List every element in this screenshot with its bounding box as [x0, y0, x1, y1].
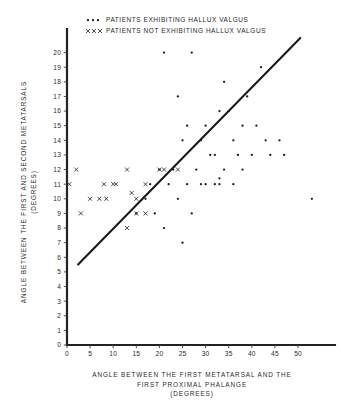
data-point-dot	[311, 198, 313, 200]
data-point-dot	[200, 183, 202, 185]
data-point-dot	[237, 154, 239, 156]
data-point-dot	[269, 154, 271, 156]
y-tick-label: 1	[57, 327, 61, 334]
data-point-cross	[157, 168, 161, 172]
data-point-dot	[204, 183, 206, 185]
data-point-dot	[181, 139, 183, 141]
y-tick-label: 4	[57, 283, 61, 290]
data-point-cross	[102, 182, 106, 186]
y-tick-label: 9	[57, 210, 61, 217]
legend-marker-dot	[92, 19, 94, 21]
y-tick-label: 8	[57, 224, 61, 231]
plot-canvas: PATIENTS EXHIBITING HALLUX VALGUSPATIENT…	[0, 0, 341, 413]
y-tick-label: 6	[57, 254, 61, 261]
data-point-cross	[125, 168, 129, 172]
data-point-dot	[214, 183, 216, 185]
data-point-dot	[232, 139, 234, 141]
data-point-cross	[79, 211, 83, 215]
data-point-dot	[191, 51, 193, 53]
data-point-dot	[195, 168, 197, 170]
legend-marker-cross	[86, 29, 90, 33]
regression-line	[78, 38, 300, 265]
x-axis-title-line: ANGLE BETWEEN THE FIRST METATARSAL AND T…	[92, 371, 291, 378]
data-point-cross	[74, 168, 78, 172]
data-point-dot	[214, 154, 216, 156]
data-point-dot	[241, 125, 243, 127]
data-point-dot	[255, 125, 257, 127]
scatter-plot-figure: PATIENTS EXHIBITING HALLUX VALGUSPATIENT…	[0, 0, 341, 413]
y-tick-label: 18	[53, 78, 61, 85]
y-tick-label: 16	[53, 107, 61, 114]
axis-ticks: 0123456789101112131415161718192005101520…	[53, 49, 302, 357]
data-point-dot	[246, 95, 248, 97]
data-point-cross	[134, 211, 138, 215]
data-point-dot	[177, 95, 179, 97]
x-tick-label: 30	[202, 350, 210, 357]
legend-marker-dot	[97, 19, 99, 21]
series-dot	[135, 51, 313, 243]
axes	[67, 29, 335, 345]
x-tick-label: 15	[132, 350, 140, 357]
data-point-dot	[177, 198, 179, 200]
data-point-cross	[134, 197, 138, 201]
legend-marker-dot	[87, 19, 89, 21]
data-point-dot	[163, 227, 165, 229]
data-point-dot	[260, 66, 262, 68]
data-point-cross	[144, 211, 148, 215]
data-point-cross	[162, 168, 166, 172]
y-tick-label: 5	[57, 268, 61, 275]
y-tick-label: 19	[53, 64, 61, 71]
y-tick-label: 14	[53, 137, 61, 144]
x-tick-label: 5	[88, 350, 92, 357]
y-tick-label: 10	[53, 195, 61, 202]
y-axis-title-line: (DEGREES)	[30, 170, 38, 214]
data-point-dot	[265, 139, 267, 141]
y-tick-label: 3	[57, 298, 61, 305]
y-tick-label: 15	[53, 122, 61, 129]
y-tick-label: 12	[53, 166, 61, 173]
x-tick-label: 45	[271, 350, 279, 357]
x-tick-label: 25	[179, 350, 187, 357]
data-point-dot	[186, 183, 188, 185]
x-axis-title-line: FIRST PROXIMAL PHALANGE	[137, 381, 247, 388]
y-tick-label: 13	[53, 151, 61, 158]
data-point-dot	[163, 51, 165, 53]
legend-marker-cross	[92, 29, 96, 33]
data-point-dot	[204, 125, 206, 127]
data-points	[67, 51, 313, 243]
data-point-dot	[149, 183, 151, 185]
data-point-dot	[191, 212, 193, 214]
data-point-dot	[223, 168, 225, 170]
data-point-cross	[176, 168, 180, 172]
y-tick-label: 7	[57, 239, 61, 246]
y-tick-label: 2	[57, 312, 61, 319]
y-tick-label: 11	[54, 181, 61, 188]
data-point-dot	[167, 183, 169, 185]
data-point-dot	[232, 183, 234, 185]
data-point-cross	[88, 197, 92, 201]
data-point-cross	[125, 226, 129, 230]
legend-marker-cross	[98, 29, 102, 33]
y-tick-label: 0	[57, 341, 61, 348]
x-axis-title-line: (DEGREES)	[170, 390, 214, 398]
y-axis-title-line: ANGLE BETWEEN THE FIRST AND SECOND METAT…	[20, 81, 27, 303]
data-point-dot	[218, 177, 220, 179]
legend-label: PATIENTS NOT EXHIBITING HALLUX VALGUS	[106, 27, 266, 34]
data-point-dot	[181, 242, 183, 244]
data-point-cross	[104, 197, 108, 201]
x-tick-label: 35	[225, 350, 233, 357]
data-point-cross	[114, 182, 118, 186]
data-point-cross	[97, 197, 101, 201]
data-point-dot	[154, 212, 156, 214]
y-tick-label: 17	[53, 93, 61, 100]
fit-line	[78, 38, 300, 265]
legend: PATIENTS EXHIBITING HALLUX VALGUSPATIENT…	[86, 16, 266, 34]
data-point-dot	[278, 139, 280, 141]
data-point-cross	[130, 191, 134, 195]
data-point-dot	[283, 154, 285, 156]
data-point-dot	[251, 154, 253, 156]
axis-frame	[67, 29, 335, 345]
x-tick-label: 50	[294, 350, 302, 357]
x-tick-label: 40	[248, 350, 256, 357]
data-point-dot	[223, 81, 225, 83]
